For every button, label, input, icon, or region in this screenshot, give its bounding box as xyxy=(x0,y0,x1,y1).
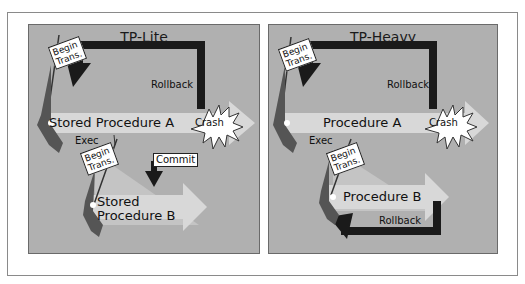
rollback-label: Rollback xyxy=(387,79,429,90)
exec-label: Exec xyxy=(309,135,333,146)
procedure-a-label: Procedure A xyxy=(323,116,401,130)
stored-procedure-b-label: Stored Procedure B xyxy=(97,195,175,223)
proc-b-line2: Procedure B xyxy=(97,209,175,223)
procedure-b-label: Procedure B xyxy=(343,190,421,204)
crash-label: Crash xyxy=(195,117,224,128)
rollback-b-label: Rollback xyxy=(379,215,421,226)
proc-b-line1: Stored xyxy=(97,195,175,209)
crash-label: Crash xyxy=(429,117,458,128)
commit-label: Commit xyxy=(153,153,198,167)
rollback-label: Rollback xyxy=(151,79,193,90)
stored-procedure-a-label: Stored Procedure A xyxy=(49,116,174,130)
tp-lite-panel: TP-Lite Begin Trans. Rollback Stored Pro… xyxy=(28,24,260,254)
tp-heavy-panel: TP-Heavy Begin Trans. Rollback Procedure… xyxy=(268,24,498,254)
exec-label: Exec xyxy=(75,135,99,146)
